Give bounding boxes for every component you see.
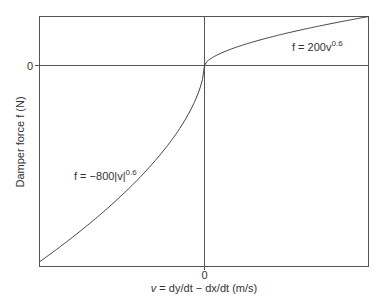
x-axis-label: v = dy/dt − dx/dt (m/s)	[151, 282, 257, 294]
compression-curve	[205, 17, 370, 66]
x-zero-label: 0	[201, 269, 207, 281]
y-zero-label: 0	[27, 60, 33, 72]
rebound-curve	[40, 66, 205, 262]
y-axis-label: Damper force f (N)	[14, 96, 26, 187]
rebound-equation: f = −800|v|0.6	[74, 168, 137, 182]
damper-force-chart: 0 0 Damper force f (N) v = dy/dt − dx/dt…	[0, 0, 382, 298]
compression-equation: f = 200v0.6	[292, 39, 343, 53]
